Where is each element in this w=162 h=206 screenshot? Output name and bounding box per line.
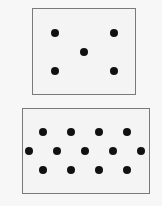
dot [137, 147, 145, 155]
dot [39, 166, 47, 174]
dot [81, 147, 89, 155]
dot [80, 48, 88, 56]
dot [123, 128, 131, 136]
dot [25, 147, 33, 155]
dot [110, 29, 118, 37]
dot [53, 147, 61, 155]
dot [39, 128, 47, 136]
dot [110, 67, 118, 75]
dot [67, 166, 75, 174]
dot [67, 128, 75, 136]
dot [123, 166, 131, 174]
dot [95, 166, 103, 174]
dot [51, 67, 59, 75]
dot [95, 128, 103, 136]
dot [51, 29, 59, 37]
dot [109, 147, 117, 155]
